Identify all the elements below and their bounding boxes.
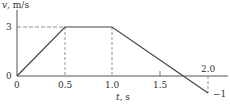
velocity-time-graph: v, m/s 3 0 0 0.5 1.0 1.5 2.0 −1 t, s [0,0,230,107]
y-axis-label: v, m/s [2,0,29,10]
x-tick-1-0: 1.0 [105,80,120,90]
x-tick-1-5: 1.5 [153,80,168,90]
x-tick-0-5: 0.5 [58,80,73,90]
y-tick-0: 0 [6,71,12,81]
x-axis-label: t, s [116,92,130,102]
x-tick-0: 0 [14,80,20,90]
y-tick-neg1: −1 [213,89,226,99]
x-tick-2-0: 2.0 [201,64,216,74]
y-tick-3: 3 [6,22,12,32]
